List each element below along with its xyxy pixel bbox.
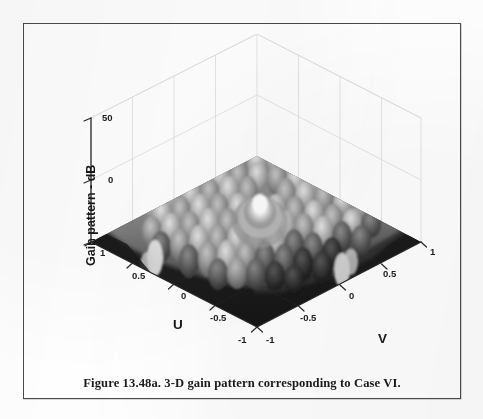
z-tick-2: -50: [97, 236, 111, 247]
u-tick-4: -1: [238, 334, 246, 345]
z-tick-0: 50: [102, 112, 113, 123]
u-tick-1: 0.5: [132, 270, 145, 281]
surface-plot: Gain pattern - dB 50 0 -50 U 1 0.5 0 -0.…: [42, 34, 444, 354]
figure-frame: Gain pattern - dB 50 0 -50 U 1 0.5 0 -0.…: [23, 23, 461, 399]
z-tick-1: 0: [108, 174, 113, 185]
surface-plot-svg: [42, 34, 444, 354]
v-axis-label: V: [378, 331, 387, 346]
u-tick-2: 0: [181, 290, 186, 301]
u-axis-label: U: [173, 317, 183, 332]
u-tick-0: 1: [100, 247, 105, 258]
v-tick-3: 0.5: [383, 268, 396, 279]
z-axis-label: Gain pattern - dB: [84, 165, 98, 266]
v-tick-4: 1: [430, 246, 435, 257]
scanned-page: Gain pattern - dB 50 0 -50 U 1 0.5 0 -0.…: [0, 0, 483, 419]
u-tick-3: -0.5: [210, 312, 226, 323]
v-tick-0: -1: [266, 334, 274, 345]
figure-caption: Figure 13.48a. 3-D gain pattern correspo…: [24, 376, 460, 391]
v-tick-2: 0: [349, 290, 354, 301]
v-tick-1: -0.5: [300, 312, 316, 323]
